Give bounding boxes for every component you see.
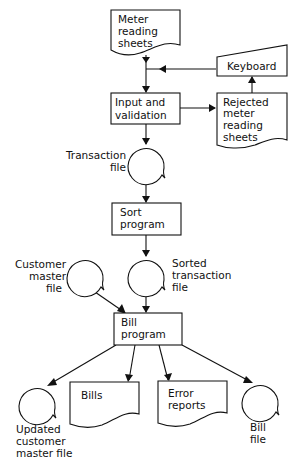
node-label: file (46, 282, 62, 294)
arrowhead-sort (142, 196, 150, 203)
node-label: transaction (172, 269, 231, 281)
node-meter-reading-sheets[interactable]: Meter reading sheets (111, 10, 180, 55)
node-bill-file[interactable]: Bill file (242, 386, 279, 445)
node-label: Customer (15, 258, 67, 270)
node-label: master (29, 270, 67, 282)
node-label: sheets (223, 131, 258, 143)
arrowhead-keyboard-in (248, 76, 256, 83)
node-label: Bill (121, 316, 137, 328)
node-label: file (172, 281, 188, 293)
tape-shape (19, 389, 56, 425)
node-label: Sort (120, 206, 142, 218)
node-label: reading (223, 119, 263, 131)
arrowhead-bills (125, 374, 133, 382)
arrowhead-errors (164, 373, 172, 381)
node-bills[interactable]: Bills (70, 382, 139, 427)
node-label: Bills (81, 389, 102, 401)
node-label: Sorted (172, 257, 207, 269)
tape-shape (242, 386, 279, 422)
node-label: Updated (16, 423, 61, 435)
node-bill-program[interactable]: Bill program (114, 313, 182, 345)
node-label: validation (115, 109, 167, 121)
node-label: reading (118, 25, 158, 37)
node-label: Keyboard (227, 60, 276, 72)
node-label: Input and (115, 96, 165, 108)
node-input-validation[interactable]: Input and validation (111, 93, 180, 124)
node-label: Meter (118, 13, 149, 25)
tape-shape (128, 149, 165, 185)
node-label: customer (16, 435, 66, 447)
edge-bill-to-billfile (182, 345, 251, 382)
tape-shape (128, 261, 165, 297)
node-label: program (121, 328, 166, 340)
arrowhead-keyboard (159, 65, 166, 73)
node-label: master file (16, 447, 72, 459)
arrowhead-into-input (142, 86, 150, 93)
node-label: Error (168, 387, 194, 399)
node-rejected-sheets[interactable]: Rejected meter reading sheets (217, 93, 287, 148)
arrowhead-meter-out (142, 57, 150, 63)
arrowhead-bill-from-sorted (142, 306, 150, 313)
tape-shape (67, 261, 104, 297)
arrowhead-rejected (209, 104, 216, 112)
node-transaction-file[interactable]: Transaction file (65, 149, 165, 185)
flowchart-canvas: Meter reading sheets Keyboard Input and … (0, 0, 298, 468)
node-customer-master-file[interactable]: Customer master file (15, 258, 104, 297)
node-updated-customer-master-file[interactable]: Updated customer master file (16, 389, 72, 459)
node-label: program (120, 218, 165, 230)
node-label: Bill (250, 421, 266, 433)
node-error-reports[interactable]: Error reports (158, 381, 227, 426)
node-sorted-transaction-file[interactable]: Sorted transaction file (128, 257, 231, 297)
node-sort-program[interactable]: Sort program (112, 203, 181, 235)
edge-bill-to-updated (50, 345, 116, 384)
node-keyboard[interactable]: Keyboard (217, 45, 287, 76)
node-label: sheets (118, 37, 153, 49)
arrowhead-billfile (243, 376, 253, 383)
arrowhead-updated (47, 378, 57, 386)
node-label: reports (168, 399, 206, 411)
arrowhead-transaction (142, 138, 150, 145)
arrowhead-sorted (142, 250, 150, 257)
node-label: meter (223, 107, 255, 119)
node-label: file (250, 433, 266, 445)
node-label: Transaction (65, 149, 126, 161)
node-label: file (110, 161, 126, 173)
